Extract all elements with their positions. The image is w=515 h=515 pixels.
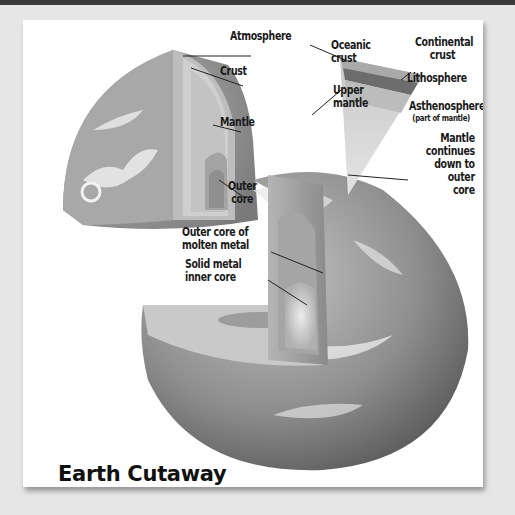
label-mantle-continues-line5: core: [453, 183, 475, 197]
diagram-card: Atmosphere Crust Mantle Outer core Ocean…: [23, 20, 483, 487]
top-bar: [0, 0, 515, 5]
label-mantle-continues-line3: down to: [434, 157, 475, 171]
label-outer-core-molten-line2: molten metal: [182, 238, 249, 252]
label-outer-core-molten-line1: Outer core of: [182, 225, 248, 239]
label-outer-core: Outer core: [228, 180, 257, 206]
label-mantle-continues-line1: Mantle: [440, 131, 475, 145]
label-outer-core-line1: Outer: [228, 179, 257, 193]
label-lithosphere: Lithosphere: [407, 72, 467, 85]
label-atmosphere: Atmosphere: [230, 30, 291, 43]
label-outer-core-line2: core: [228, 192, 253, 206]
label-asthenosphere-main: Asthenosphere: [409, 99, 483, 113]
label-oceanic-crust: Oceanic crust: [331, 39, 371, 65]
label-continental-crust-line1: Continental: [415, 35, 473, 49]
label-mantle-continues-line2: continues: [426, 144, 475, 158]
label-oceanic-crust-line2: crust: [331, 51, 356, 65]
label-asthenosphere-note: (part of mantle): [409, 113, 483, 123]
label-outer-core-molten: Outer core of molten metal: [182, 226, 249, 252]
label-inner-core: Solid metal inner core: [185, 258, 241, 284]
label-upper-mantle-line2: mantle: [333, 96, 368, 110]
label-continental-crust: Continental crust: [415, 36, 473, 62]
label-oceanic-crust-line1: Oceanic: [331, 38, 371, 52]
label-inner-core-line2: inner core: [185, 270, 236, 284]
label-mantle-continues: Mantle continues down to outer core: [426, 132, 475, 197]
label-upper-mantle-line1: Upper: [333, 83, 364, 97]
label-mantle-continues-line4: outer: [448, 170, 475, 184]
label-upper-mantle: Upper mantle: [333, 84, 368, 110]
label-mantle: Mantle: [220, 116, 255, 129]
label-asthenosphere: Asthenosphere (part of mantle): [409, 100, 483, 123]
label-inner-core-line1: Solid metal: [185, 257, 241, 271]
earth-cutaway-illustration: [23, 20, 483, 487]
label-crust: Crust: [220, 65, 247, 78]
diagram-title: Earth Cutaway: [58, 462, 226, 486]
label-continental-crust-line2: crust: [415, 48, 455, 62]
